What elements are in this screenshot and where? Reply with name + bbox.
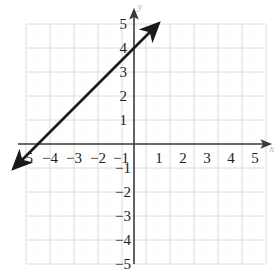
y-tick-label: 1 (120, 112, 128, 128)
y-tick-label: 4 (120, 40, 128, 56)
coordinate-plane: x y −5 −4 −3 −2 −1 1 2 3 4 5 5 4 3 2 1 −… (0, 0, 279, 272)
y-tick-label: −3 (115, 208, 131, 224)
y-tick-label: −1 (115, 160, 131, 176)
y-tick-label: 5 (120, 16, 128, 32)
x-tick-label: 3 (203, 150, 211, 166)
x-tick-label: 1 (155, 150, 163, 166)
y-tick-label: 3 (120, 64, 128, 80)
y-tick-label: 2 (120, 88, 128, 104)
x-tick-label: 5 (251, 150, 259, 166)
x-axis-label: x (269, 142, 275, 154)
x-tick-label: 2 (179, 150, 187, 166)
x-tick-label: −2 (90, 150, 106, 166)
y-tick-label: −5 (115, 256, 131, 272)
x-tick-label: 4 (227, 150, 235, 166)
y-tick-label: −4 (115, 232, 131, 248)
x-tick-label: −4 (42, 150, 58, 166)
y-tick-label: −2 (115, 184, 131, 200)
x-tick-label: −3 (66, 150, 82, 166)
graph-container: x y −5 −4 −3 −2 −1 1 2 3 4 5 5 4 3 2 1 −… (0, 0, 279, 272)
y-axis-label: y (137, 0, 143, 12)
